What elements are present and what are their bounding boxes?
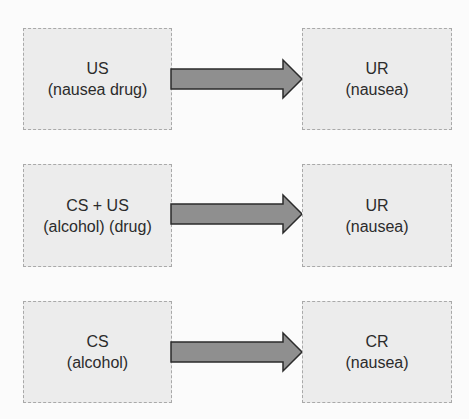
stimulus-description: (alcohol) bbox=[67, 352, 128, 373]
stimulus-description: (nausea drug) bbox=[48, 79, 148, 100]
response-label: UR bbox=[365, 195, 388, 216]
response-description: (nausea) bbox=[345, 352, 408, 373]
right-arrow-icon bbox=[170, 192, 304, 236]
stimulus-label: US bbox=[86, 58, 108, 79]
response-box-ur: UR (nausea) bbox=[302, 164, 452, 267]
response-box-cr: CR (nausea) bbox=[302, 301, 452, 403]
stimulus-label: CS + US bbox=[66, 195, 129, 216]
response-label: UR bbox=[365, 58, 388, 79]
response-label: CR bbox=[365, 331, 388, 352]
stimulus-label: CS bbox=[86, 331, 108, 352]
right-arrow-icon bbox=[170, 57, 304, 101]
response-description: (nausea) bbox=[345, 79, 408, 100]
response-box-ur: UR (nausea) bbox=[302, 28, 452, 130]
stimulus-box-cs-us: CS + US (alcohol) (drug) bbox=[23, 164, 172, 267]
stimulus-box-cs: CS (alcohol) bbox=[23, 301, 172, 403]
right-arrow-icon bbox=[170, 330, 304, 374]
stimulus-box-us: US (nausea drug) bbox=[23, 28, 172, 130]
stimulus-description: (alcohol) (drug) bbox=[43, 216, 151, 237]
response-description: (nausea) bbox=[345, 216, 408, 237]
